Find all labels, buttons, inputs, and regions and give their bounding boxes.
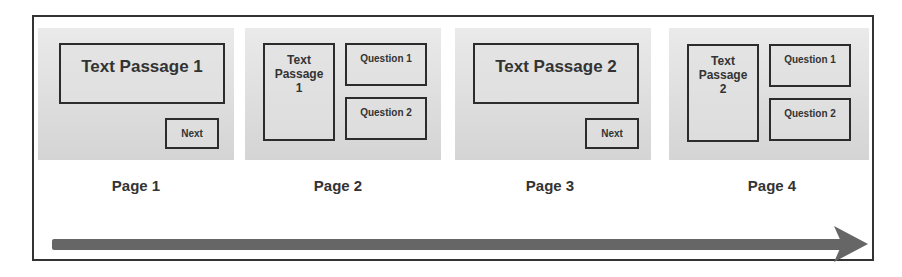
next-label: Next xyxy=(181,128,203,139)
question-1-box: Question 1 xyxy=(769,44,851,87)
question-2-box: Question 2 xyxy=(769,98,851,141)
page-1-panel: Text Passage 1 Next xyxy=(38,28,234,160)
text-passage-box: Text Passage 2 xyxy=(473,43,639,104)
question-label: Question 2 xyxy=(784,108,836,119)
text-passage-box: Text Passage 1 xyxy=(263,43,335,141)
next-button: Next xyxy=(165,118,219,149)
passage-label: Text Passage 1 xyxy=(274,53,324,95)
page-4-label: Page 4 xyxy=(712,177,832,194)
text-passage-box: Text Passage 1 xyxy=(59,43,225,104)
question-label: Question 2 xyxy=(360,107,412,118)
question-label: Question 1 xyxy=(784,54,836,65)
next-button: Next xyxy=(585,118,639,149)
page-2-label: Page 2 xyxy=(278,177,398,194)
next-label: Next xyxy=(601,128,623,139)
passage-label: Text Passage 2 xyxy=(495,57,617,77)
question-label: Question 1 xyxy=(360,53,412,64)
passage-label: Text Passage 1 xyxy=(81,57,203,77)
question-2-box: Question 2 xyxy=(345,97,427,140)
progression-arrow-icon xyxy=(52,224,872,264)
page-3-panel: Text Passage 2 Next xyxy=(455,28,651,160)
page-1-label: Page 1 xyxy=(76,177,196,194)
text-passage-box: Text Passage 2 xyxy=(687,44,759,142)
question-1-box: Question 1 xyxy=(345,43,427,86)
page-2-panel: Text Passage 1 Question 1 Question 2 xyxy=(245,28,441,160)
page-4-panel: Text Passage 2 Question 1 Question 2 xyxy=(669,28,869,160)
page-3-label: Page 3 xyxy=(490,177,610,194)
passage-label: Text Passage 2 xyxy=(698,54,748,96)
